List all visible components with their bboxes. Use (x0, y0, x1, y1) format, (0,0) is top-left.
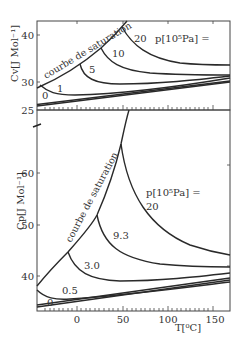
top-ytick-40: 40 (21, 30, 34, 41)
top-ytick-30: 30 (21, 77, 34, 88)
xtick-0: 0 (74, 314, 80, 325)
bottom-curve-label-93: 9.3 (113, 230, 129, 241)
top-legend-title: p[10⁵Pa] = (155, 33, 210, 44)
top-curve-label-20: 20 (134, 33, 147, 44)
cp-saturation-curve (37, 110, 129, 286)
bottom-saturation-label: courbe de saturation (63, 150, 120, 244)
xtick-50: 50 (117, 314, 130, 325)
top-ylabel: Cv[J Mol⁻¹] (9, 25, 20, 82)
bottom-legend-value: 20 (146, 201, 159, 212)
cp-curve-p20 (121, 144, 230, 255)
cp-curve-p93 (97, 215, 230, 267)
top-ytick-25: 25 (21, 105, 34, 116)
bottom-legend-title: p[10⁵Pa] = (146, 187, 201, 198)
bottom-panel-labels: 60 50 40 Cp[J Mol⁻¹] p[10⁵Pa] = 20 0 0.5… (15, 150, 225, 333)
chart: 40 30 25 Cv[J Mol⁻¹] p[10⁵Pa] = 0 1 20 5… (0, 0, 243, 346)
svg-text:5: 5 (89, 64, 95, 75)
bottom-curve-label-0: 0 (47, 297, 53, 308)
bottom-curve-label-30: 3.0 (84, 260, 100, 271)
xtick-150: 150 (205, 314, 224, 325)
cv-curve-p0 (37, 82, 230, 106)
bottom-ylabel: Cp[J Mol⁻¹] (15, 172, 26, 230)
bottom-ytick-40: 40 (21, 271, 34, 282)
top-panel-labels: 40 30 25 Cv[J Mol⁻¹] p[10⁵Pa] = 0 1 20 5… (9, 20, 210, 116)
bottom-curve-label-05: 0.5 (62, 285, 78, 296)
top-curve-label-10: 10 (112, 48, 125, 59)
top-curve-label-0: 0 (42, 90, 48, 101)
top-curve-label-1: 1 (57, 83, 63, 94)
bottom-panel-curves (37, 110, 230, 307)
x-axis-label: T[⁰C] (175, 322, 201, 333)
